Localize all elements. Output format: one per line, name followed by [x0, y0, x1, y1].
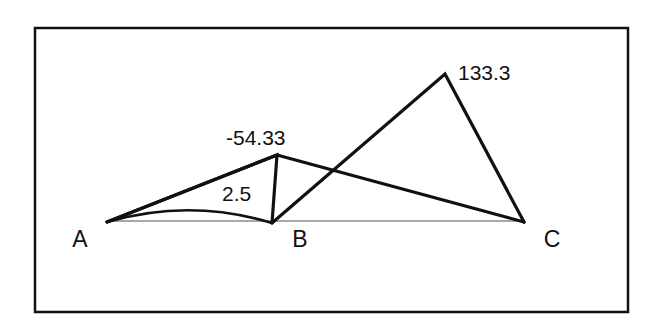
vertex-label-c: C: [544, 226, 561, 252]
figure-canvas: A B C 133.3 -54.33 2.5: [0, 0, 662, 336]
value-label-large-triangle: 133.3: [458, 61, 511, 84]
vertex-label-b: B: [292, 226, 307, 252]
vertex-label-a: A: [72, 226, 88, 252]
geometry-figure: A B C 133.3 -54.33 2.5: [0, 0, 662, 336]
value-label-small-triangle: -54.33: [226, 126, 286, 149]
value-label-arc-region: 2.5: [222, 182, 251, 205]
